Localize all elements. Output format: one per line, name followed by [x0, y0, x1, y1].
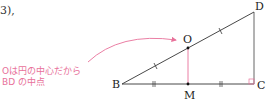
label-C: C: [257, 79, 265, 92]
label-O: O: [183, 33, 192, 46]
label-B: B: [112, 78, 120, 91]
annotation-arrow: [88, 38, 176, 62]
point-O: [187, 47, 190, 50]
triangle-figure: B C D O M: [0, 0, 266, 102]
point-M: [187, 83, 190, 86]
label-M: M: [184, 89, 195, 102]
label-D: D: [255, 0, 264, 13]
right-angle-mark: [249, 79, 254, 84]
